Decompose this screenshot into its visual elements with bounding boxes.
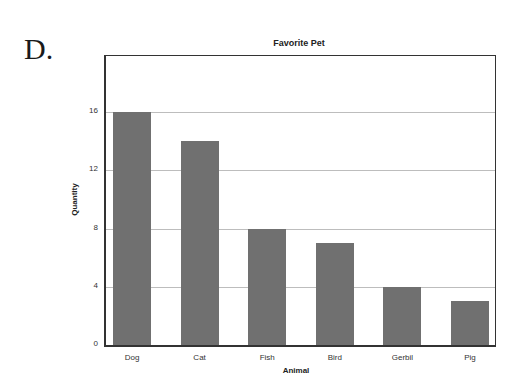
bar-fish bbox=[248, 229, 286, 345]
y-tick-label: 0 bbox=[78, 339, 98, 348]
x-tick-label: Pig bbox=[440, 353, 500, 362]
gridline bbox=[106, 287, 495, 288]
bar-bird bbox=[316, 243, 354, 345]
x-tick-label: Dog bbox=[102, 353, 162, 362]
bar-pig bbox=[451, 301, 489, 345]
y-tick-label: 12 bbox=[78, 164, 98, 173]
x-tick-label: Bird bbox=[305, 353, 365, 362]
panel-letter: D. bbox=[24, 32, 53, 66]
x-tick-label: Gerbil bbox=[372, 353, 432, 362]
bar-gerbil bbox=[383, 287, 421, 345]
x-tick-label: Fish bbox=[237, 353, 297, 362]
x-tick-label: Cat bbox=[170, 353, 230, 362]
bar-cat bbox=[181, 141, 219, 345]
y-tick-label: 16 bbox=[78, 106, 98, 115]
chart-title: Favorite Pet bbox=[104, 38, 494, 48]
x-axis-label: Animal bbox=[266, 366, 326, 375]
bar-dog bbox=[113, 112, 151, 345]
gridline bbox=[106, 112, 495, 113]
plot-area bbox=[104, 55, 496, 347]
y-tick-label: 4 bbox=[78, 281, 98, 290]
gridline bbox=[106, 170, 495, 171]
gridline bbox=[106, 229, 495, 230]
y-axis-label: Quantity bbox=[70, 170, 79, 230]
y-tick-label: 8 bbox=[78, 223, 98, 232]
